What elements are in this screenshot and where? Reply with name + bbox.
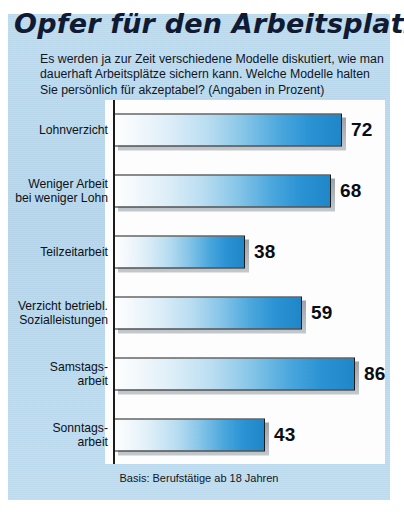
bar-wrapper xyxy=(114,419,265,452)
bar-category-label: Sonntags-arbeit xyxy=(14,421,108,450)
bar-row: Verzicht betriebl.Sozialleistungen59 xyxy=(0,283,404,343)
bar-value-label: 38 xyxy=(254,241,276,263)
bar-wrapper xyxy=(114,114,342,147)
bar-row: Teilzeitarbeit38 xyxy=(0,222,404,282)
bar xyxy=(114,358,355,391)
bar-row: Weniger Arbeitbei weniger Lohn68 xyxy=(0,161,404,221)
chart-subtitle: Es werden ja zur Zeit verschiedene Model… xyxy=(40,52,385,98)
bar-category-label-line2: bei weniger Lohn xyxy=(14,191,108,205)
bar-category-label-line1: Sonntags- xyxy=(14,421,108,435)
bar-category-label-line1: Teilzeitarbeit xyxy=(14,245,108,259)
page-title: Opfer für den Arbeitsplatz xyxy=(14,8,394,39)
bar-category-label-line2: Sozialleistungen xyxy=(14,313,108,327)
bar xyxy=(114,236,245,269)
bar-category-label: Weniger Arbeitbei weniger Lohn xyxy=(14,177,108,206)
bar xyxy=(114,175,331,208)
bar-category-label-line1: Weniger Arbeit xyxy=(14,177,108,191)
bar-wrapper xyxy=(114,236,245,269)
bar xyxy=(114,419,265,452)
bar-category-label-line1: Lohnverzicht xyxy=(14,123,108,137)
bar-value-label: 68 xyxy=(340,180,362,202)
bar xyxy=(114,297,302,330)
bar-wrapper xyxy=(114,175,331,208)
bar-category-label-line1: Verzicht betriebl. xyxy=(14,299,108,313)
infographic-page: Opfer für den Arbeitsplatz Es werden ja … xyxy=(0,0,404,514)
bar-category-label-line2: arbeit xyxy=(14,435,108,449)
bar-value-label: 86 xyxy=(364,363,386,385)
bar-value-label: 43 xyxy=(274,424,296,446)
bar-row: Lohnverzicht72 xyxy=(0,100,404,160)
bar-category-label: Teilzeitarbeit xyxy=(14,245,108,259)
chart-footnote: Basis: Berufstätige ab 18 Jahren xyxy=(8,472,390,484)
bar-row: Samstags-arbeit86 xyxy=(0,344,404,404)
value-axis-line xyxy=(113,100,115,464)
bar-wrapper xyxy=(114,297,302,330)
bar-value-label: 72 xyxy=(351,119,373,141)
bar-category-label-line2: arbeit xyxy=(14,374,108,388)
bar-category-label-line1: Samstags- xyxy=(14,360,108,374)
bar xyxy=(114,114,342,147)
bar-category-label: Lohnverzicht xyxy=(14,123,108,137)
bar-value-label: 59 xyxy=(311,302,333,324)
bar-category-label: Samstags-arbeit xyxy=(14,360,108,389)
bar-category-label: Verzicht betriebl.Sozialleistungen xyxy=(14,299,108,328)
bar-row: Sonntags-arbeit43 xyxy=(0,405,404,465)
bar-wrapper xyxy=(114,358,355,391)
